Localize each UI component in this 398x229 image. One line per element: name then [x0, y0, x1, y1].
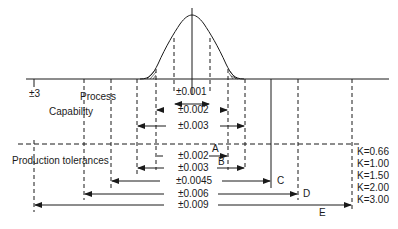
process-label: Process — [80, 92, 116, 102]
pc2-value: ±0.002 — [178, 105, 209, 115]
tol-a-value: ±0.002 — [178, 151, 209, 161]
tol-d-value: ±0.006 — [178, 189, 209, 199]
k-value-b: K=1.00 — [357, 159, 389, 169]
letter-d: D — [303, 189, 310, 199]
process-capability-diagram: ±3 Process Capability Production toleran… — [0, 0, 398, 229]
letter-a: A — [212, 144, 219, 154]
k-value-e: K=3.00 — [357, 195, 389, 205]
sigma-label: ±3 — [29, 89, 40, 99]
letter-b: B — [218, 157, 225, 167]
k-value-d: K=2.00 — [357, 183, 389, 193]
pc3-value: ±0.003 — [178, 121, 209, 131]
tol-b-value: ±0.003 — [178, 163, 209, 173]
production-tolerances-label: Production tolerances — [12, 156, 109, 166]
capability-label: Capability — [49, 107, 93, 117]
letter-e: E — [319, 208, 326, 218]
k-value-c: K=1.50 — [357, 171, 389, 181]
k-value-a: K=0.66 — [357, 147, 389, 157]
letter-c: C — [277, 176, 284, 186]
pc1-value: ±0.001 — [176, 87, 207, 97]
tol-e-value: ±0.009 — [178, 200, 209, 210]
tol-c-value: ±0.0045 — [176, 176, 212, 186]
